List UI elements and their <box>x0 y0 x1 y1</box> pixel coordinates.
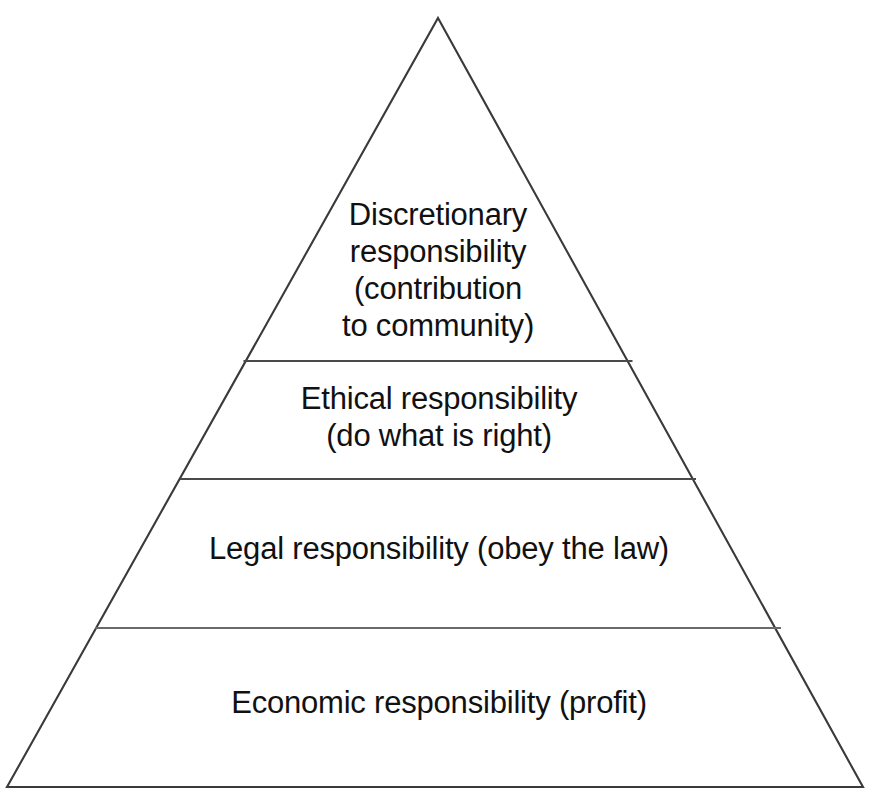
tier-label-economic: Economic responsibility (profit) <box>119 684 759 721</box>
tier-label-legal: Legal responsibility (obey the law) <box>139 530 739 567</box>
diagram-canvas: Discretionary responsibility (contributi… <box>0 0 879 812</box>
tier-label-discretionary: Discretionary responsibility (contributi… <box>238 196 638 344</box>
tier-label-ethical: Ethical responsibility (do what is right… <box>189 380 689 454</box>
